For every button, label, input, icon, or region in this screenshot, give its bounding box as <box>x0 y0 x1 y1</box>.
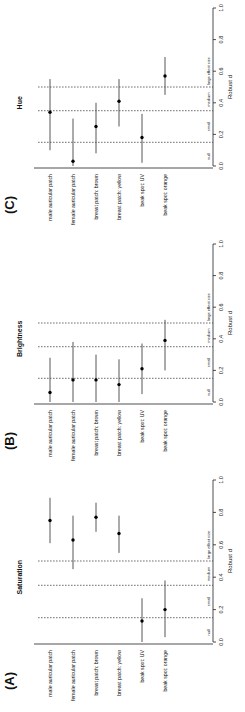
category-label: male auricular patch <box>47 174 53 221</box>
chart-title: Brightness <box>16 320 24 357</box>
category-label: beak spot: orange <box>162 410 168 452</box>
x-tick-label: 0.0 <box>218 638 224 646</box>
effect-size-point <box>48 519 51 522</box>
category-label: female auricular patch <box>70 174 76 225</box>
x-tick-label: 0.0 <box>218 398 224 406</box>
x-tick-label: 1.0 <box>218 240 224 248</box>
category-label: beak spot: orange <box>162 650 168 692</box>
panel-label: (C) <box>2 196 17 214</box>
region-label: null <box>206 153 211 159</box>
effect-size-point <box>163 74 166 77</box>
category-label: beak spot: UV <box>139 173 145 206</box>
effect-size-point <box>117 532 120 535</box>
x-tick-label: 0.8 <box>218 509 224 517</box>
category-label: breast patch: yellow <box>116 174 122 220</box>
effect-size-point <box>117 383 120 386</box>
category-label: breast patch: brown <box>93 174 99 220</box>
effect-size-point <box>48 391 51 394</box>
category-label: breast patch: brown <box>93 650 99 696</box>
x-axis-label: Robust d <box>227 75 233 99</box>
effect-size-point <box>48 111 51 114</box>
effect-size-point <box>94 378 97 381</box>
region-label: null <box>206 629 211 635</box>
chart-title: Saturation <box>16 560 23 595</box>
category-label: beak spot: UV <box>139 649 145 682</box>
region-label: large effect size <box>206 530 211 559</box>
x-tick-label: 0.6 <box>218 303 224 311</box>
category-label: male auricular patch <box>47 650 53 697</box>
region-label: small <box>206 122 211 131</box>
x-axis-label: Robust d <box>227 549 233 573</box>
effect-size-point <box>71 378 74 381</box>
panel-label: (A) <box>2 672 17 690</box>
x-axis-label: Robust d <box>227 311 233 335</box>
effect-size-point <box>71 538 74 541</box>
x-tick-label: 1.0 <box>218 4 224 12</box>
category-label: breast patch: yellow <box>116 410 122 456</box>
category-label: beak spot: UV <box>139 409 145 442</box>
x-tick-label: 0.6 <box>218 67 224 75</box>
category-label: beak spot: orange <box>162 174 168 216</box>
panel-a-saturation: (A)Saturationmale auricular patchfemale … <box>0 472 245 712</box>
category-label: breast patch: yellow <box>116 650 122 696</box>
chart-svg: (C)Huemale auricular patchfemale auricul… <box>0 0 245 236</box>
region-label: null <box>206 389 211 395</box>
effect-size-point <box>163 339 166 342</box>
region-label: large effect size <box>206 292 211 321</box>
x-tick-label: 0.4 <box>218 573 224 581</box>
x-tick-label: 0.4 <box>218 99 224 107</box>
panel-b-brightness: (B)Brightnessmale auricular patchfemale … <box>0 236 245 472</box>
effect-size-point <box>140 136 143 139</box>
effect-size-point <box>71 160 74 163</box>
x-tick-label: 0.0 <box>218 162 224 170</box>
effect-size-point <box>94 516 97 519</box>
category-label: female auricular patch <box>70 650 76 701</box>
effect-size-point <box>94 125 97 128</box>
x-tick-label: 0.6 <box>218 541 224 549</box>
effect-size-point <box>117 100 120 103</box>
panel-c-hue: (C)Huemale auricular patchfemale auricul… <box>0 0 245 236</box>
effect-size-point <box>140 367 143 370</box>
category-label: breast patch: brown <box>93 410 99 456</box>
x-tick-label: 1.0 <box>218 476 224 484</box>
panel-label: (B) <box>2 432 17 450</box>
effect-size-point <box>163 608 166 611</box>
region-label: medium <box>206 92 211 107</box>
region-label: medium <box>206 328 211 343</box>
chart-svg: (B)Brightnessmale auricular patchfemale … <box>0 236 245 472</box>
region-label: medium <box>206 566 211 581</box>
region-label: small <box>206 358 211 367</box>
x-tick-label: 0.4 <box>218 335 224 343</box>
x-tick-label: 0.8 <box>218 272 224 280</box>
x-tick-label: 0.2 <box>218 367 224 375</box>
effect-size-point <box>140 619 143 622</box>
x-tick-label: 0.8 <box>218 36 224 44</box>
x-tick-label: 0.2 <box>218 606 224 614</box>
chart-svg: (A)Saturationmale auricular patchfemale … <box>0 472 245 712</box>
category-label: female auricular patch <box>70 410 76 461</box>
region-label: small <box>206 597 211 606</box>
x-tick-label: 0.2 <box>218 131 224 139</box>
chart-title: Hue <box>16 96 23 109</box>
category-label: male auricular patch <box>47 410 53 457</box>
region-label: large effect size <box>206 56 211 85</box>
